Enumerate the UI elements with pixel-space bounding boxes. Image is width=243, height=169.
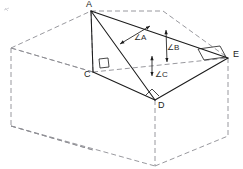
- dashed-box-edges: [11, 11, 228, 166]
- vertex-label-E: E: [233, 50, 239, 59]
- vertex-label-A: A: [86, 0, 92, 9]
- scan-artifact-mark: [4, 8, 9, 11]
- diagram-svg: [0, 0, 243, 169]
- box-bot-left-to-front: [11, 126, 155, 166]
- box-bot-front-to-right: [155, 136, 228, 166]
- vertex-label-C: C: [84, 70, 91, 79]
- edge-A-C: [91, 11, 93, 72]
- angle-label-A: ∠A: [134, 34, 146, 42]
- right-angle-at-C: [99, 58, 109, 68]
- box-top-left-back: [11, 11, 91, 48]
- box-inner-C-to-left: [11, 48, 93, 72]
- angle-label-C: ∠C: [155, 71, 168, 79]
- solid-pyramid-edges: [91, 11, 228, 100]
- edge-A-E: [91, 11, 228, 58]
- vertex-label-D: D: [158, 101, 165, 110]
- angle-label-B: ∠B: [167, 44, 179, 52]
- edge-A-D: [91, 11, 155, 100]
- geometry-diagram-canvas: ACDE∠A∠B∠C: [0, 0, 243, 169]
